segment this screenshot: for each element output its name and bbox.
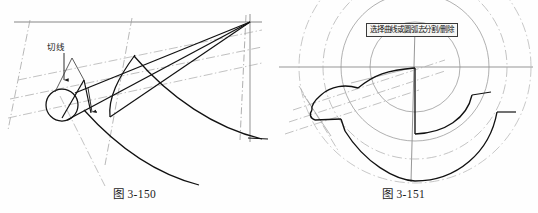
figure-3-151: 选择曲线或圆弧去分割/删除 图 3-151 [269, 0, 538, 213]
command-prompt-tooltip[interactable]: 选择曲线或圆弧去分割/删除 [366, 23, 458, 37]
handle-top-edge [312, 86, 358, 110]
claw-outer-arc [345, 112, 497, 181]
dashdot-vertical-left [8, 20, 30, 130]
claw-inner-upper-arc [358, 68, 415, 88]
outer-arc-lower [84, 110, 199, 185]
figure-caption-left: 图 3-150 [0, 185, 269, 201]
figure-3-150: 切线 图 3-150 [0, 0, 269, 213]
cone-axis-centerline [10, 47, 262, 99]
tangent-construction-line-b [55, 58, 72, 92]
lower-tangent-line [67, 22, 250, 120]
apex-ray-secondary [110, 22, 250, 117]
tangent-callout-label: 切线 [47, 42, 65, 52]
claw-inner-arc [415, 95, 472, 134]
handle-bottom-edge [315, 119, 341, 120]
frustum-end-edge [84, 80, 91, 113]
dashdot-inclined-upper [293, 60, 445, 110]
tangent-construction-line-a [72, 58, 84, 80]
upper-tangent-line [75, 22, 250, 93]
handle-step-notch [341, 119, 345, 131]
outer-arc-upper [134, 56, 262, 139]
claw-inner-end-edge [472, 92, 491, 95]
figure-3-150-drawing [0, 0, 269, 190]
dashdot-parallel-upper [18, 30, 262, 80]
figure-caption-right: 图 3-151 [269, 185, 538, 201]
outer-arc-tail [248, 138, 268, 139]
scanned-drawing-page: 切线 图 3-150 [0, 0, 538, 213]
